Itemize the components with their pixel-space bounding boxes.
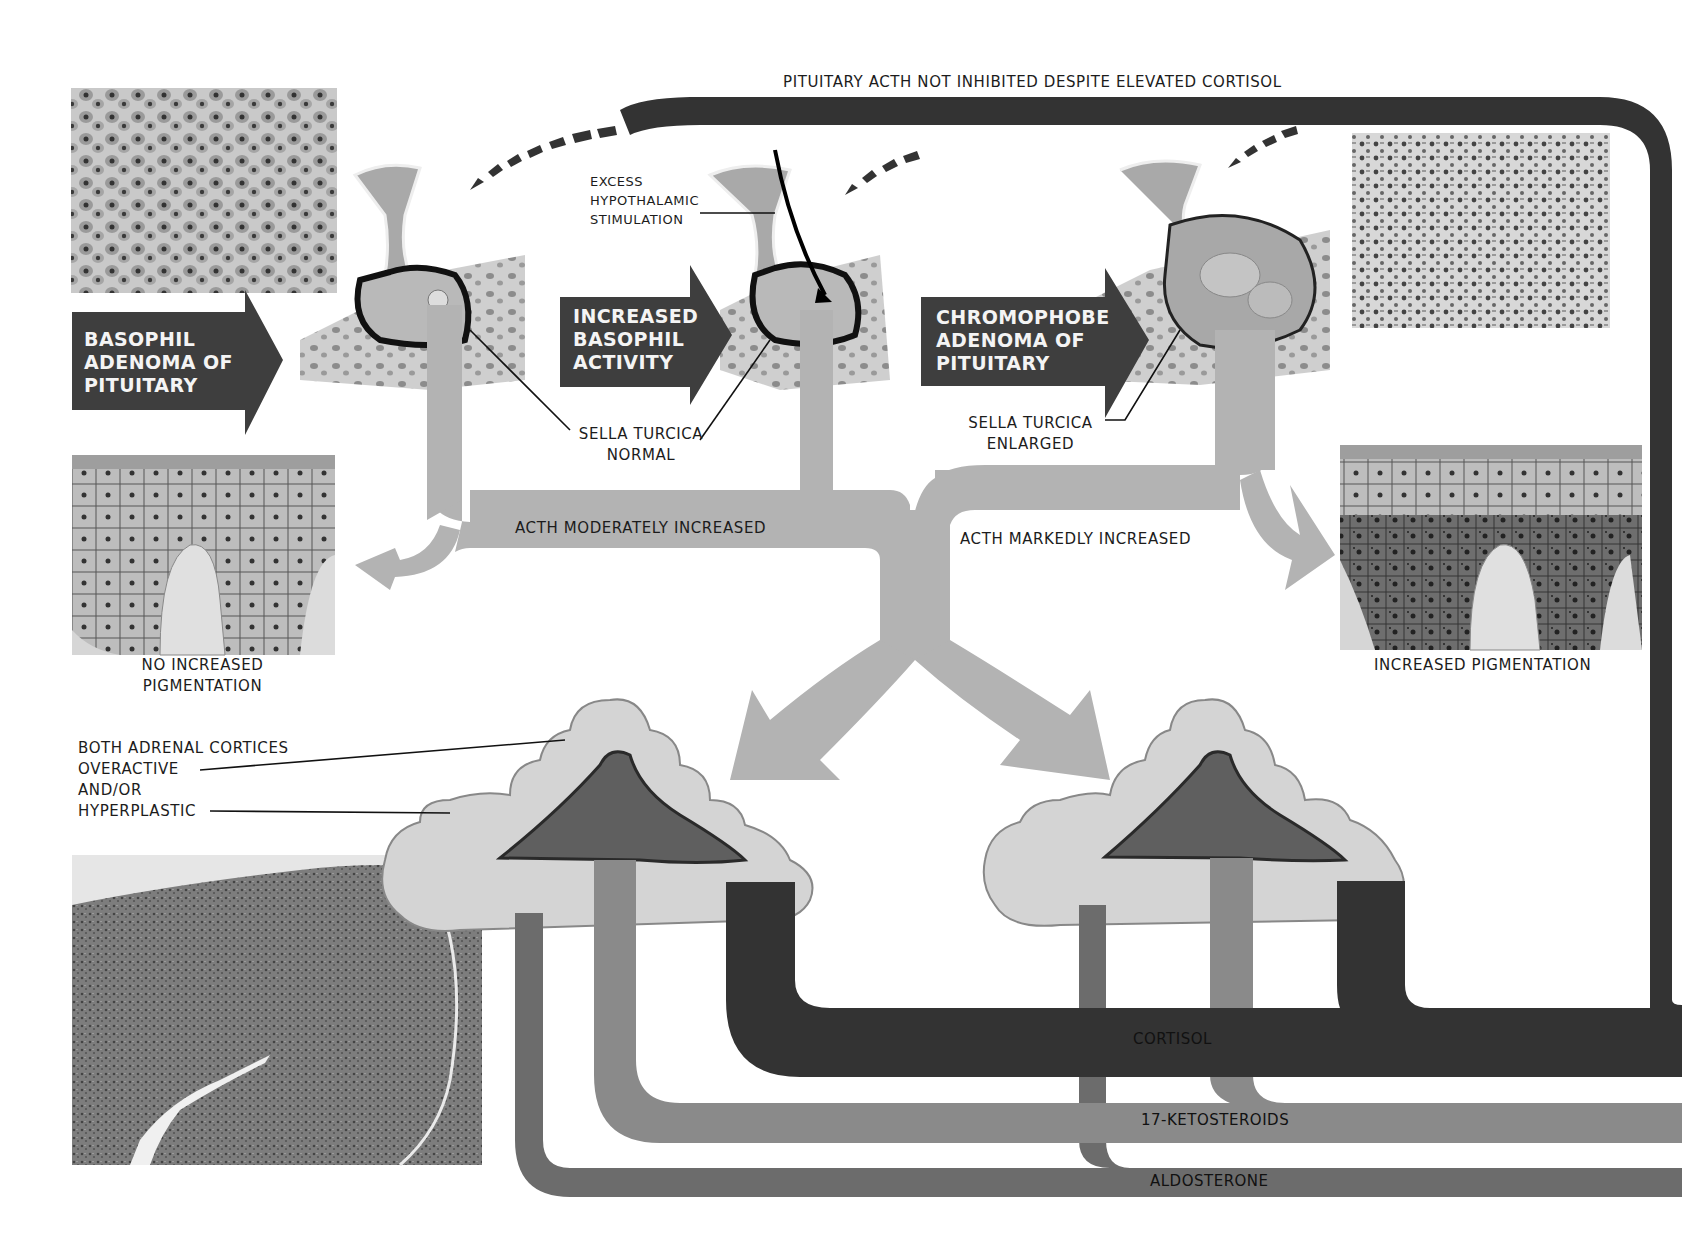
feedback-dash-2 bbox=[845, 151, 920, 195]
cause-label-line: BASOPHIL bbox=[84, 328, 233, 351]
feedback-dash-3 bbox=[1228, 126, 1298, 168]
cause-label-line: ADENOMA OF bbox=[84, 351, 233, 374]
ketosteroids-label: 17-KETOSTEROIDS bbox=[1141, 1111, 1289, 1129]
label-line: OVERACTIVE bbox=[78, 759, 289, 780]
adrenal-label: BOTH ADRENAL CORTICES OVERACTIVE AND/OR … bbox=[78, 738, 289, 822]
cause-label-line: INCREASED bbox=[573, 305, 698, 328]
cortisol-label: CORTISOL bbox=[1133, 1030, 1212, 1048]
label-line: ENLARGED bbox=[958, 434, 1103, 455]
chromophobe-micrograph bbox=[1352, 133, 1610, 328]
label-line: EXCESS bbox=[590, 172, 699, 191]
hypothalamic-label: EXCESS HYPOTHALAMIC STIMULATION bbox=[590, 172, 699, 229]
diagram-canvas bbox=[0, 0, 1682, 1258]
cause-label-line: PITUITARY bbox=[84, 374, 233, 397]
no-pigmentation-label: NO INCREASED PIGMENTATION bbox=[120, 655, 285, 697]
basophil-micrograph bbox=[71, 88, 337, 293]
skin-normal-panel bbox=[72, 455, 335, 655]
acth-marked-label: ACTH MARKEDLY INCREASED bbox=[960, 529, 1191, 550]
cause-increased-basophil-activity: INCREASED BASOPHIL ACTIVITY bbox=[560, 265, 735, 410]
label-line: NO INCREASED bbox=[120, 655, 285, 676]
acth-moderate-label: ACTH MODERATELY INCREASED bbox=[515, 518, 766, 539]
label-line: HYPOTHALAMIC bbox=[590, 191, 699, 210]
label-line: AND/OR bbox=[78, 780, 289, 801]
label-line: BOTH ADRENAL CORTICES bbox=[78, 738, 289, 759]
feedback-label: PITUITARY ACTH NOT INHIBITED DESPITE ELE… bbox=[783, 72, 1282, 93]
sella-enlarged-label: SELLA TURCICA ENLARGED bbox=[958, 413, 1103, 455]
skin-pigmented-panel bbox=[1340, 445, 1642, 650]
cause-label-line: ACTIVITY bbox=[573, 351, 698, 374]
cause-chromophobe-adenoma: CHROMOPHOBE ADENOMA OF PITUITARY bbox=[921, 268, 1151, 418]
label-line: STIMULATION bbox=[590, 210, 699, 229]
sella-normal-label: SELLA TURCICA NORMAL bbox=[570, 424, 712, 466]
label-line: SELLA TURCICA bbox=[570, 424, 712, 445]
cause-basophil-adenoma: BASOPHIL ADENOMA OF PITUITARY bbox=[72, 290, 287, 435]
cause-label-line: PITUITARY bbox=[936, 352, 1110, 375]
cause-label-line: BASOPHIL bbox=[573, 328, 698, 351]
label-line: NORMAL bbox=[570, 445, 712, 466]
aldosterone-label: ALDOSTERONE bbox=[1150, 1172, 1269, 1190]
label-line: SELLA TURCICA bbox=[958, 413, 1103, 434]
label-line: HYPERPLASTIC bbox=[78, 801, 289, 822]
label-line: PIGMENTATION bbox=[120, 676, 285, 697]
cause-label-line: ADENOMA OF bbox=[936, 329, 1110, 352]
cause-label-line: CHROMOPHOBE bbox=[936, 306, 1110, 329]
pigmentation-label: INCREASED PIGMENTATION bbox=[1374, 655, 1591, 676]
